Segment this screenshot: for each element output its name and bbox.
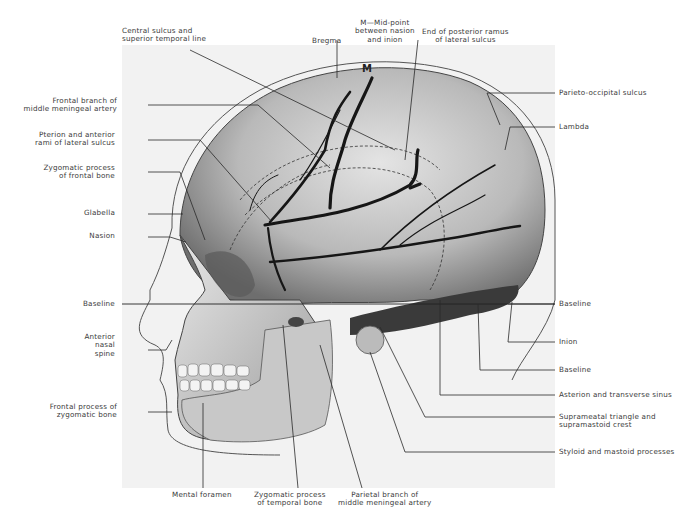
label-midpoint: M—Mid-pointbetween nasionand inion	[355, 19, 415, 44]
label-pterion: Pterion and anteriorrami of lateral sulc…	[35, 131, 115, 148]
label-frontal-branch-mma: Frontal branch ofmiddle meningeal artery	[24, 97, 117, 114]
label-inion: Inion	[559, 338, 578, 346]
label-zygomatic-process-frontal: Zygomatic processof frontal bone	[43, 164, 115, 181]
skull-illustration	[0, 0, 695, 517]
label-central-sulcus: Central sulcus andsuperior temporal line	[122, 27, 206, 44]
label-styloid-mastoid: Styloid and mastoid processes	[559, 448, 674, 456]
label-anterior-nasal-spine: Anteriornasalspine	[84, 333, 115, 358]
label-glabella: Glabella	[84, 209, 115, 217]
label-bregma: Bregma	[312, 37, 341, 45]
label-baseline-right-2: Baseline	[559, 366, 591, 374]
label-zygomatic-process-temporal: Zygomatic processof temporal bone	[254, 491, 326, 508]
label-suprameatal: Suprameatal triangle andsupramastoid cre…	[559, 413, 656, 430]
midpoint-marker: M	[362, 65, 372, 73]
label-parietal-branch-mma: Parietal branch ofmiddle meningeal arter…	[338, 491, 431, 508]
label-baseline-right-1: Baseline	[559, 300, 591, 308]
label-parieto-occipital-sulcus: Parieto-occipital sulcus	[559, 89, 647, 97]
label-baseline-left: Baseline	[83, 300, 115, 308]
label-lambda: Lambda	[559, 123, 589, 131]
mastoid-process	[356, 326, 384, 354]
label-asterion: Asterion and transverse sinus	[559, 391, 672, 399]
external-acoustic-meatus	[288, 317, 304, 327]
label-mental-foramen: Mental foramen	[172, 491, 232, 499]
label-frontal-process-zygomatic: Frontal process ofzygomatic bone	[50, 403, 117, 420]
label-nasion: Nasion	[89, 232, 115, 240]
label-posterior-ramus-end: End of posterior ramusof lateral sulcus	[422, 28, 509, 45]
